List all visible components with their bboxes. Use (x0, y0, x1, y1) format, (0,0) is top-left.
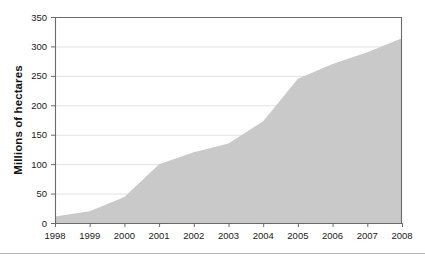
x-axis-tick-label: 2004 (253, 230, 274, 241)
x-axis-tick-label: 2006 (322, 230, 343, 241)
chart-figure: 050100150200250300350 199819992000200120… (0, 0, 425, 260)
y-axis-tick-label: 150 (31, 129, 47, 140)
y-axis-tick-label: 50 (36, 188, 47, 199)
x-axis-tick-label: 2007 (357, 230, 378, 241)
y-axis-tick-label: 0 (42, 218, 47, 229)
x-axis-tick-label: 2003 (218, 230, 239, 241)
x-axis-tick-label: 2002 (183, 230, 204, 241)
x-axis-tick-labels-group: 1998199920002001200220032004200520062007… (44, 230, 412, 241)
y-axis-tick-label: 350 (31, 12, 47, 23)
x-axis-tick-label: 1999 (79, 230, 100, 241)
y-axis-tick-label: 300 (31, 41, 47, 52)
y-axis-tick-label: 250 (31, 70, 47, 81)
y-axis-title: Millions of hectares (12, 65, 24, 174)
area-chart: 050100150200250300350 199819992000200120… (0, 0, 425, 260)
x-axis-tick-label: 2008 (391, 230, 412, 241)
x-axis-tick-label: 2000 (114, 230, 135, 241)
x-axis-tick-label: 2005 (287, 230, 308, 241)
x-axis-tick-label: 2001 (149, 230, 170, 241)
y-axis-tick-label: 200 (31, 100, 47, 111)
x-axis-tick-label: 1998 (44, 230, 65, 241)
y-axis-tick-label: 100 (31, 159, 47, 170)
